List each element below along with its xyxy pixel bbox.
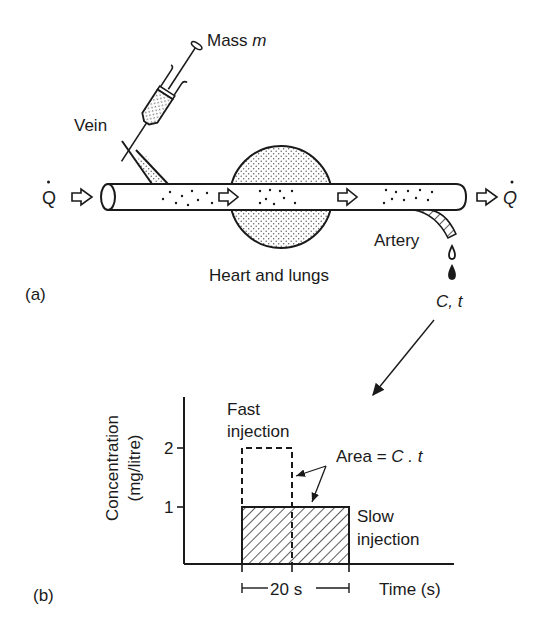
duration-dimension: 20 s [242, 580, 349, 599]
diagram-canvas: Q Q Mass m Vein Heart and lungs Artery C… [0, 0, 542, 637]
slow-injection-label: Slow injection [357, 507, 419, 549]
y-axis-units: (mg/litre) [125, 434, 144, 501]
inflow-arrow-icon [72, 189, 92, 205]
blood-vessel-tube [101, 184, 466, 210]
y-axis-label: Concentration [103, 415, 122, 521]
area-pointer-icon [296, 466, 326, 476]
panel-b: 2 1 Concentration (mg/litre) 20 s Time (… [33, 397, 454, 605]
area-label: Area = C . t [336, 447, 424, 466]
panel-a: Q Q Mass m Vein Heart and lungs Artery C… [25, 31, 517, 395]
artery-catheter [414, 210, 456, 238]
blood-drop-icon [449, 246, 455, 259]
fast-injection-label: Fast injection [227, 400, 289, 441]
sample-label: C, t [436, 292, 464, 311]
outflow-dot [511, 181, 514, 184]
outflow-arrow-icon [477, 189, 497, 205]
slow-injection-bar [242, 507, 349, 564]
duration-label: 20 s [270, 580, 302, 599]
organ-label: Heart and lungs [209, 266, 329, 285]
tube-open-end [101, 184, 115, 210]
x-axis-label: Time (s) [379, 580, 441, 599]
panel-b-label: (b) [33, 586, 54, 605]
blood-drop-icon [449, 266, 455, 279]
area-pointer-icon [312, 466, 326, 502]
vein-label: Vein [74, 116, 107, 135]
y-tick-2: 2 [164, 439, 173, 458]
connector-arrow-icon [373, 320, 434, 395]
inflow-dot [47, 181, 50, 184]
mass-label: Mass m [207, 31, 267, 50]
outflow-symbol: Q [503, 188, 517, 208]
panel-a-label: (a) [25, 285, 46, 304]
y-tick-1: 1 [164, 498, 173, 517]
artery-label: Artery [374, 231, 420, 250]
inflow-symbol: Q [42, 188, 56, 208]
vein-branch [122, 141, 168, 184]
